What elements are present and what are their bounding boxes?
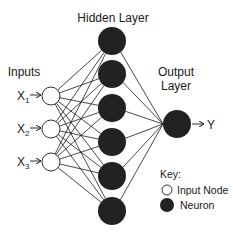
- input-x3: X3: [17, 155, 41, 171]
- connection-line: [120, 124, 163, 200]
- hidden-neuron-5: [98, 162, 126, 190]
- connection-line: [58, 134, 101, 167]
- hidden-neuron-1: [98, 27, 126, 55]
- legend: Key: Input Node Neuron: [160, 168, 229, 212]
- input-x3-label: X3: [17, 155, 30, 171]
- hidden-neuron-2: [98, 60, 126, 88]
- connection-line: [58, 168, 101, 203]
- inputs-heading: Inputs: [8, 65, 41, 79]
- hidden-neuron-3: [98, 94, 126, 122]
- connection-line: [123, 124, 163, 167]
- legend-neuron-label: Neuron: [180, 199, 215, 211]
- input-node-2: [42, 120, 60, 138]
- connection-line: [121, 52, 163, 124]
- connection-line: [56, 53, 104, 122]
- input-node-key-icon: [162, 185, 172, 195]
- hidden-layer-heading: Hidden Layer: [77, 11, 148, 25]
- input-x2-label: X2: [17, 122, 30, 138]
- connection-line: [58, 50, 102, 90]
- neural-network-diagram: Hidden Layer Inputs Output Layer X1 X2 X…: [0, 0, 233, 237]
- output-layer-heading-line2: Layer: [161, 79, 191, 93]
- input-x1-label: X1: [17, 89, 30, 105]
- neuron-key-icon: [160, 198, 174, 212]
- connection-line: [60, 131, 99, 139]
- connection-line: [56, 136, 103, 200]
- output-neuron: [163, 110, 191, 138]
- output-y-label: Y: [207, 118, 215, 132]
- connection-line: [123, 83, 163, 124]
- network-nodes: [42, 27, 191, 225]
- legend-title: Key:: [160, 168, 181, 180]
- hidden-neuron-6: [98, 197, 126, 225]
- hidden-neuron-4: [98, 128, 126, 156]
- output-layer-heading-line1: Output: [158, 65, 195, 79]
- connection-line: [56, 103, 103, 165]
- connection-line: [58, 83, 102, 123]
- legend-input-node-label: Input Node: [177, 184, 229, 196]
- input-node-1: [42, 87, 60, 105]
- connection-line: [60, 164, 99, 173]
- input-x2: X2: [17, 122, 41, 138]
- input-x1: X1: [17, 89, 41, 105]
- input-node-3: [42, 153, 60, 171]
- connection-line: [125, 124, 163, 138]
